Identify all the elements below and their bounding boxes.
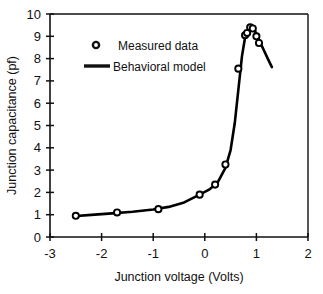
measured-data-point [235,66,241,72]
y-tick-label: 7 [34,73,41,88]
y-tick-label: 3 [34,163,41,178]
y-tick-label: 0 [34,230,41,245]
y-tick-label: 10 [27,7,41,22]
legend-label-measured-data: Measured data [118,39,198,53]
junction-capacitance-chart: 012345678910 -3-2-1012 Measured data Beh… [0,0,323,294]
x-tick-label: -2 [96,246,108,261]
legend-marker-measured-data [93,42,99,48]
measured-data-point [155,206,161,212]
chart-figure: 012345678910 -3-2-1012 Measured data Beh… [0,0,323,294]
y-tick-label: 5 [34,118,41,133]
x-tick-label: 0 [201,246,208,261]
measured-data-point [197,192,203,198]
x-tick-label: -3 [44,246,56,261]
measured-data-point [73,213,79,219]
x-tick-label: 1 [253,246,260,261]
legend-label-behavioral-model: Behavioral model [113,60,206,74]
measured-data-point [222,161,228,167]
measured-data-point [212,181,218,187]
measured-data-point [250,25,256,31]
y-tick-label: 6 [34,96,41,111]
measured-data-point [256,40,262,46]
x-tick-label: 2 [304,246,311,261]
y-tick-label: 1 [34,207,41,222]
y-axis-title: Junction capacitance (pf) [5,56,19,195]
y-tick-label: 9 [34,29,41,44]
measured-data-point [253,33,259,39]
y-tick-label: 8 [34,51,41,66]
x-axis-title: Junction voltage (Volts) [114,270,243,284]
y-tick-label: 2 [34,185,41,200]
y-tick-label: 4 [34,140,41,155]
measured-data-point [114,209,120,215]
x-tick-label: -1 [147,246,159,261]
